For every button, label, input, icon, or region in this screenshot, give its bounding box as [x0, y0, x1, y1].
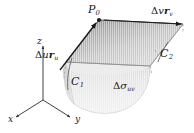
- label-dvrv-sub: v: [169, 10, 173, 17]
- label-patch-area-delta-sigma-uv: Δσuv: [113, 81, 135, 92]
- label-c2-sub: 2: [168, 53, 173, 61]
- label-p0-sub: 0: [95, 9, 100, 17]
- axis-x: [16, 100, 43, 117]
- axis-label-y: y: [75, 115, 80, 124]
- surface-tangent-plane-figure: P0 Δvrv Δuru C1 C2 Δσuv x y z: [0, 0, 194, 133]
- figure-canvas: [0, 0, 194, 133]
- label-ds-sub: uv: [127, 85, 135, 92]
- label-curve-c2: C2: [160, 48, 173, 61]
- axis-label-z: z: [37, 37, 42, 46]
- label-curve-c1: C1: [71, 76, 84, 89]
- point-p0-marker: [97, 18, 101, 22]
- axis-y: [43, 100, 70, 117]
- label-point-p0: P0: [88, 4, 100, 17]
- dash-far-corner: [150, 66, 152, 74]
- label-duru-sub: u: [54, 54, 58, 61]
- label-delta-v-r-v: Δvrv: [151, 6, 173, 17]
- axis-label-x: x: [8, 115, 13, 124]
- label-c1-sub: 1: [79, 81, 84, 89]
- label-delta-u-r-u: Δuru: [35, 50, 58, 61]
